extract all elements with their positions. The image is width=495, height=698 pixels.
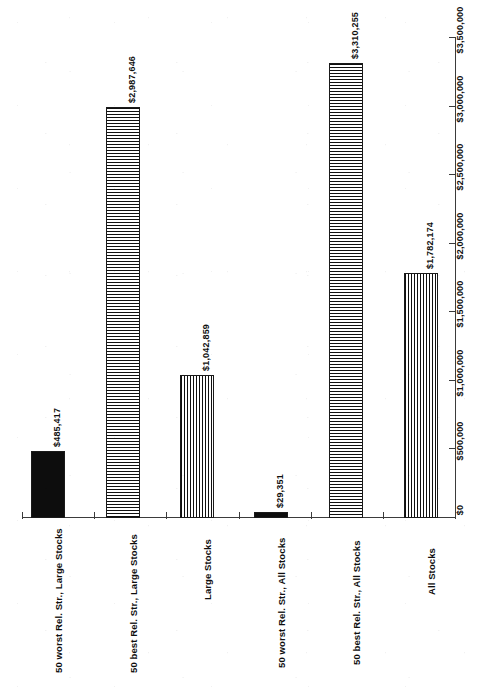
data-label-3: $29,351 (275, 474, 285, 508)
data-label-5: $1,782,174 (425, 222, 435, 269)
data-label-4: $3,310,255 (350, 12, 360, 59)
category-axis-tick-4 (311, 512, 312, 519)
category-axis-tick-3 (239, 512, 240, 519)
category-label-2: Large Stocks (202, 539, 213, 600)
category-axis-tick-0 (22, 512, 23, 519)
category-axis-tick-1 (94, 512, 95, 519)
data-label-0: $485,417 (52, 408, 62, 447)
bar-2[interactable] (180, 375, 214, 518)
category-label-4: 50 best Rel. Str., All Stocks (351, 540, 362, 665)
bar-0[interactable] (31, 451, 65, 518)
bar-1[interactable] (106, 107, 140, 518)
category-label-3: 50 worst Rel. Str., All Stocks (276, 538, 287, 668)
category-label-5: All Stocks (426, 548, 437, 595)
data-label-1: $2,987,646 (127, 56, 137, 103)
bar-4[interactable] (329, 63, 363, 518)
data-label-2: $1,042,859 (201, 324, 211, 371)
value-axis-label-text: $0 (455, 505, 465, 529)
category-axis-tick-2 (166, 512, 167, 519)
bar-3[interactable] (254, 512, 288, 518)
category-axis-tick-5 (383, 512, 384, 519)
value-axis-label-text: $3,500,000 (455, 6, 465, 67)
bar-chart: $0 $500,000 $1,000,000 $1,500,000 $2,000… (0, 0, 495, 698)
category-label-0: 50 worst Rel. Str., Large Stocks (53, 528, 64, 673)
category-axis-tick-6 (455, 512, 456, 519)
category-label-1: 50 best Rel. Str., Large Stocks (128, 534, 139, 673)
value-axis-label-7: $3,500,000 (455, 0, 465, 97)
bar-5[interactable] (404, 273, 438, 518)
